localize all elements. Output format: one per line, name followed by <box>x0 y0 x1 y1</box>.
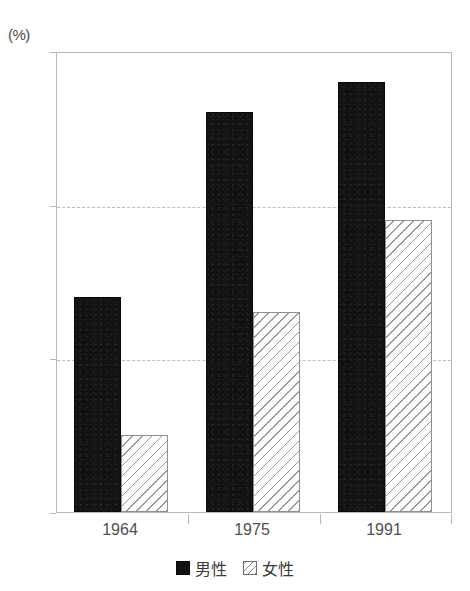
x-tick-mark-end <box>451 514 452 524</box>
bar-1964-male <box>74 297 121 512</box>
bar-1975-female <box>253 312 300 512</box>
legend-item-male[interactable]: 男性 <box>176 556 227 580</box>
solid-square-icon <box>176 561 190 575</box>
y-tick-mark-0 <box>50 513 56 514</box>
bar-1991-female <box>385 220 432 512</box>
y-tick-mark-10 <box>50 359 56 360</box>
chart-legend: 男性女性 <box>0 556 470 580</box>
x-tick-mark-2 <box>320 514 321 524</box>
x-tick-label-1964: 1964 <box>60 521 180 539</box>
bar-1991-male <box>338 82 385 512</box>
y-tick-mark-30 <box>50 52 56 53</box>
plot-area <box>56 52 452 513</box>
legend-label: 男性 <box>195 556 227 580</box>
bar-1975-male <box>206 112 253 512</box>
bar-group-1991 <box>338 53 432 512</box>
hatched-square-icon <box>243 561 257 575</box>
legend-item-female[interactable]: 女性 <box>243 556 294 580</box>
bar-chart-figure: (%) 3020100 196419751991 男性女性 <box>0 0 470 591</box>
x-tick-mark-1 <box>188 514 189 524</box>
x-tick-label-1975: 1975 <box>192 521 312 539</box>
legend-label: 女性 <box>262 556 294 580</box>
bar-group-1964 <box>74 53 168 512</box>
x-tick-label-1991: 1991 <box>324 521 444 539</box>
bar-1964-female <box>121 435 168 512</box>
bar-group-1975 <box>206 53 300 512</box>
y-tick-mark-20 <box>50 206 56 207</box>
y-axis-unit-label: (%) <box>8 26 30 43</box>
